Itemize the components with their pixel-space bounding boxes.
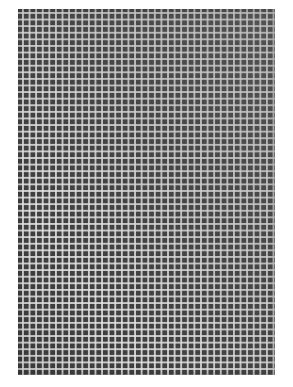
lighting-gradient [18, 9, 275, 375]
edge-vignette [18, 9, 275, 375]
mesh-grid-photo [18, 9, 275, 375]
